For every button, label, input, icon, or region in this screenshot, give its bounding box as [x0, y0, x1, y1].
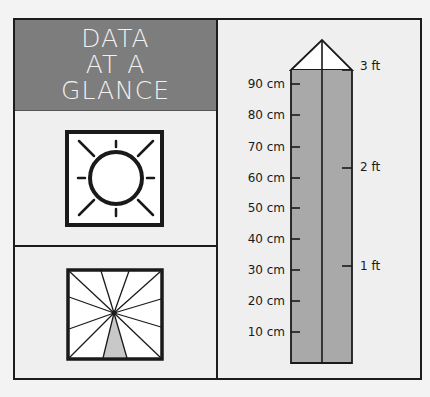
sun-icon — [64, 129, 166, 229]
title-line-1: DATA — [81, 26, 149, 52]
ft-label-1: 1 ft — [360, 259, 380, 273]
ft-label-3: 3 ft — [360, 59, 380, 73]
cm-label-70: 70 cm — [248, 140, 285, 154]
cm-label-80: 80 cm — [248, 108, 285, 122]
vertical-divider — [216, 18, 218, 380]
cm-label-10: 10 cm — [248, 325, 285, 339]
cm-label-50: 50 cm — [248, 201, 285, 215]
cm-label-20: 20 cm — [248, 294, 285, 308]
pie-chart-icon — [65, 267, 165, 362]
cm-label-60: 60 cm — [248, 171, 285, 185]
cm-label-40: 40 cm — [248, 232, 285, 246]
ft-label-2: 2 ft — [360, 160, 380, 174]
horizontal-divider — [13, 245, 218, 247]
title-banner: DATA AT A GLANCE — [15, 20, 216, 111]
title-line-2: AT A — [86, 52, 145, 78]
cm-label-90: 90 cm — [248, 77, 285, 91]
cm-label-30: 30 cm — [248, 263, 285, 277]
height-gauge — [280, 30, 370, 370]
title-line-3: GLANCE — [61, 78, 170, 104]
